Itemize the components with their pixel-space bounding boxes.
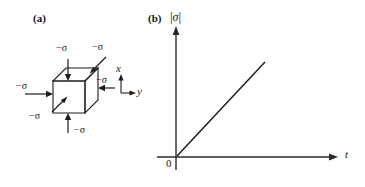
panel-b-y-axis-label: |σ| — [170, 9, 181, 25]
y-axis-arrowhead — [173, 26, 180, 35]
y-axis-label-bar-right: | — [179, 9, 182, 24]
origin-label: 0 — [166, 157, 172, 169]
plot-series — [177, 62, 265, 156]
x-axis-arrowhead — [329, 154, 338, 161]
panel-b-graphics — [0, 0, 365, 187]
stress-magnitude-line — [177, 62, 265, 156]
figure-root: (a) — [0, 0, 365, 187]
panel-b-x-axis-label: t — [345, 148, 348, 160]
